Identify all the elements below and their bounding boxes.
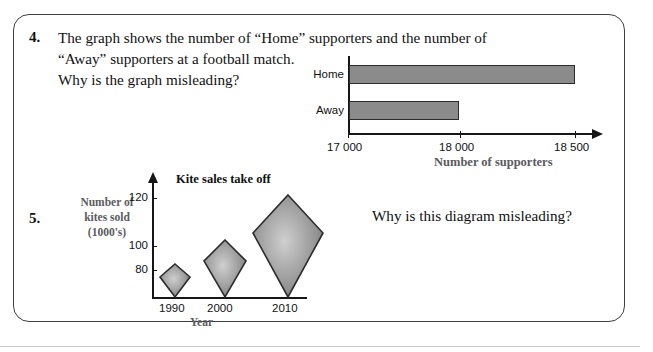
kite-sales-pictogram: Kite sales take off Number of kites sold… <box>62 171 362 316</box>
kite-chart-x-tick-label-1990: 1990 <box>159 302 185 314</box>
question-4-block: 4. The graph shows the number of “Home” … <box>14 15 626 165</box>
bar-chart-x-tick-label-0: 17 000 <box>327 141 362 153</box>
kite-chart-y-tick-label-120: 120 <box>116 191 148 203</box>
kite-chart-y-tick-80 <box>152 270 157 271</box>
bar-category-label-away: Away <box>288 104 344 116</box>
kite-chart-y-axis-arrow-icon <box>148 172 158 183</box>
kite-symbol-1990 <box>158 263 192 299</box>
question-5-text: Why is this diagram misleading? <box>372 207 572 225</box>
bar-chart-x-axis-arrow-icon <box>592 129 603 139</box>
question-5-number: 5. <box>29 210 40 227</box>
kite-chart-y-tick-100 <box>152 246 157 247</box>
bar-chart-x-tick-1 <box>460 131 461 138</box>
bar-home <box>349 65 575 84</box>
kite-chart-y-axis <box>152 182 154 298</box>
kite-chart-y-tick-label-80: 80 <box>116 263 148 275</box>
bar-chart-x-tick-0 <box>348 131 349 138</box>
kite-chart-title: Kite sales take off <box>176 172 271 187</box>
kite-chart-x-axis-title: Year <box>190 316 213 328</box>
worksheet-panel: 4. The graph shows the number of “Home” … <box>13 14 625 322</box>
kite-symbol-2010 <box>250 193 326 299</box>
kite-chart-y-tick-120 <box>152 198 157 199</box>
bar-away <box>349 101 459 120</box>
bar-category-label-home: Home <box>288 68 344 80</box>
supporters-bar-chart: Home Away 17 000 18 000 18 500 Number of… <box>286 53 624 161</box>
bar-chart-x-tick-label-2: 18 500 <box>554 141 589 153</box>
kite-y-title-line-2: kites sold <box>66 210 148 225</box>
bar-chart-x-tick-2 <box>575 131 576 138</box>
kite-chart-x-tick-label-2000: 2000 <box>207 302 233 314</box>
kite-symbol-2000 <box>202 239 248 299</box>
question-4-number: 4. <box>29 29 40 46</box>
bar-chart-x-tick-label-1: 18 000 <box>439 141 474 153</box>
kite-y-title-line-3: (1000's) <box>66 225 148 240</box>
kite-chart-y-tick-label-100: 100 <box>116 239 148 251</box>
question-5-block: 5. Why is this diagram misleading? Kite … <box>14 165 626 323</box>
kite-chart-x-tick-label-2010: 2010 <box>272 302 298 314</box>
bar-chart-x-axis <box>348 133 596 135</box>
question-4-line-1: The graph shows the number of “Home” sup… <box>58 27 388 48</box>
page-bottom-rule <box>0 346 640 347</box>
